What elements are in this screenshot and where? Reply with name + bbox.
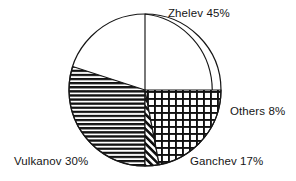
pie-label-vulkanov: Vulkanov 30%	[14, 155, 88, 168]
pie-chart-canvas	[0, 0, 296, 181]
pie-chart-figure: Zhelev 45% Others 8% Ganchev 17% Vulkano…	[0, 0, 296, 181]
pie-label-zhelev: Zhelev 45%	[168, 7, 230, 20]
pie-label-others: Others 8%	[230, 105, 285, 118]
pie-label-ganchev: Ganchev 17%	[190, 155, 263, 168]
pie-slice-vulkanov	[69, 67, 145, 166]
